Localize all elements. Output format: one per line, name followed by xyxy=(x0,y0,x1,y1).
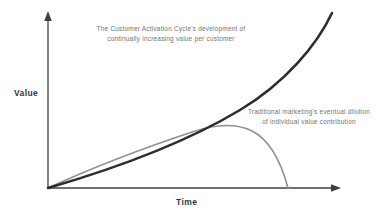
annotation-traditional-marketing: Traditional marketing's eventual dilutio… xyxy=(247,107,371,127)
x-axis-label: Time xyxy=(176,197,197,207)
chart-figure: Value Time The Customer Activation Cycle… xyxy=(0,0,376,218)
y-axis-arrowhead-icon xyxy=(44,11,52,21)
annotation-customer-activation-cycle: The Customer Activation Cycle's developm… xyxy=(96,24,246,44)
x-axis-arrowhead-icon xyxy=(331,184,341,192)
y-axis-label: Value xyxy=(14,88,38,98)
series-line-traditional-marketing xyxy=(48,125,288,188)
